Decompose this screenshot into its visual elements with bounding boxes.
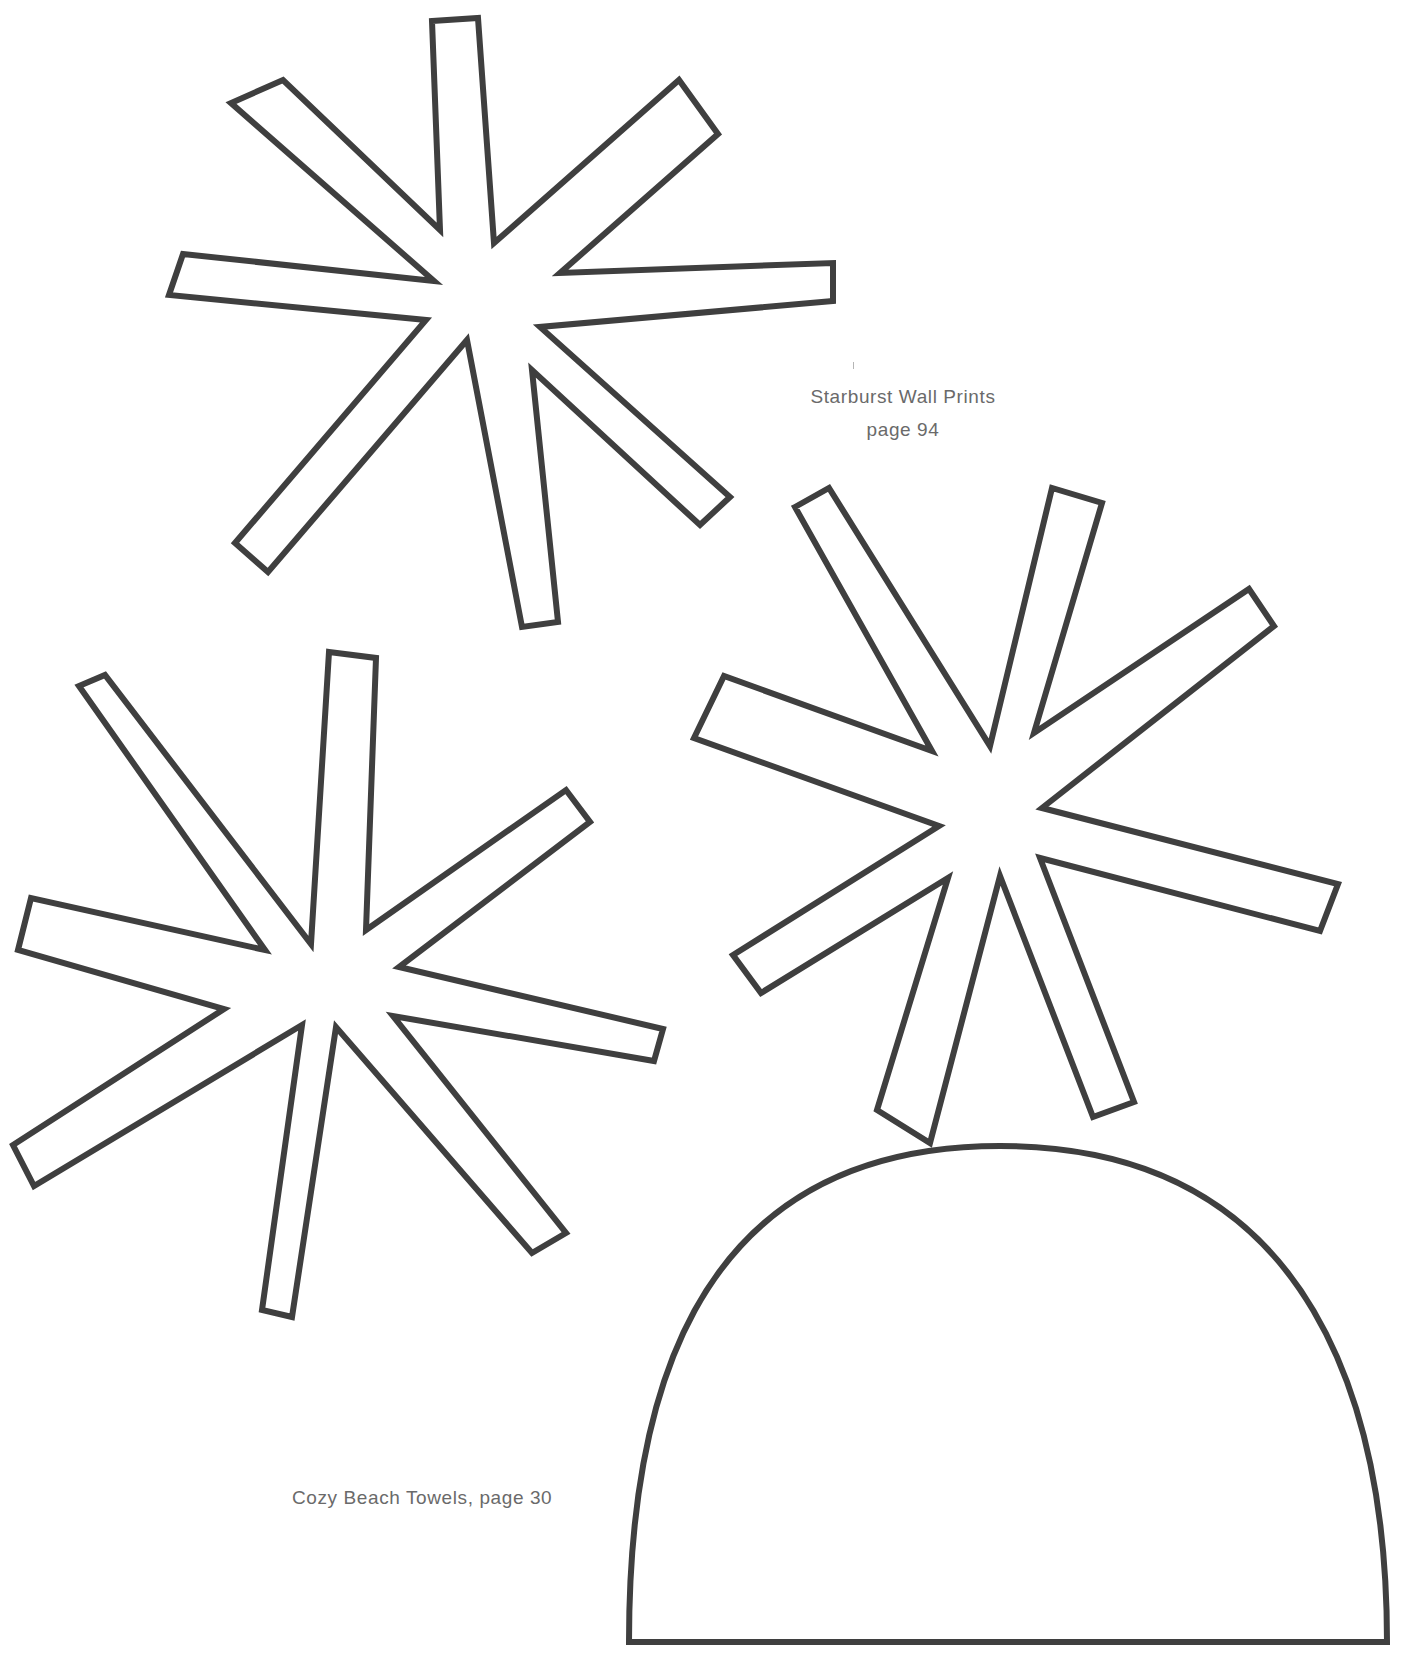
starburst-caption: Starburst Wall Prints page 94: [790, 380, 1016, 446]
template-sheet: [0, 0, 1417, 1673]
starburst-shape-right: [694, 488, 1338, 1143]
beach-towels-caption: Cozy Beach Towels, page 30: [292, 1488, 552, 1507]
starburst-shape-top: [169, 18, 833, 627]
starburst-shape-left: [13, 652, 663, 1317]
beach-towel-dome-shape: [629, 1146, 1387, 1642]
registration-tick: [853, 362, 854, 369]
starburst-caption-page: page 94: [790, 413, 1016, 446]
starburst-caption-title: Starburst Wall Prints: [790, 380, 1016, 413]
